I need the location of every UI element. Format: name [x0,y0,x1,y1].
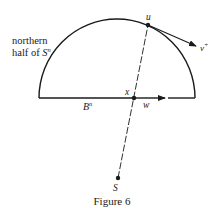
w-label: w [143,100,150,110]
point-u-dot [146,23,150,27]
point-x-dot [132,96,136,100]
point-s-dot [116,176,120,180]
ball-label: Bn [83,100,92,112]
point-u-label: u [146,12,151,22]
point-s-label: S [113,183,118,193]
region-label-line2: half of Sn [12,46,51,58]
point-x-label: x [124,87,130,97]
figure-6-diagram: northern half of Sn u v+ x w Bn S Figure… [0,0,223,208]
northern-hemisphere-arc [39,19,195,98]
v-plus-label: v+ [200,41,208,53]
figure-caption: Figure 6 [94,195,131,207]
region-label-line1: northern [12,35,48,46]
